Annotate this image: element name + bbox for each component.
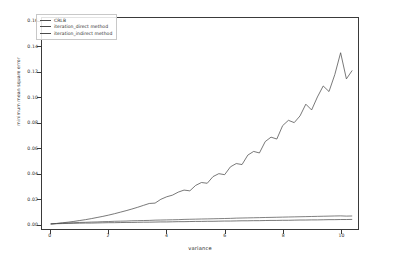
series-line xyxy=(51,53,353,224)
legend-swatch-icon xyxy=(40,26,51,27)
plot-area xyxy=(41,17,359,230)
chart-curves xyxy=(42,18,358,229)
legend-item-iteration-indirect[interactable]: iteration_indirect method xyxy=(40,30,112,37)
legend-swatch-icon xyxy=(40,20,51,21)
x-tick-mark xyxy=(108,230,109,234)
y-axis-label: minimum mean square error xyxy=(16,37,21,147)
x-tick-mark xyxy=(50,230,51,234)
y-tick-label: 0.04 xyxy=(0,171,38,176)
legend-swatch-icon xyxy=(40,33,51,34)
legend-label: iteration_indirect method xyxy=(54,31,112,36)
x-tick-mark xyxy=(341,230,342,234)
legend-label: iteration_direct method xyxy=(54,24,108,29)
chart-figure: 0.000.020.040.060.080.100.120.140.16 024… xyxy=(0,0,401,267)
y-tick-label: 0.02 xyxy=(0,197,38,202)
x-tick-mark xyxy=(166,230,167,234)
x-tick-mark xyxy=(283,230,284,234)
y-tick-label: 0.00 xyxy=(0,222,38,227)
legend-item-crlb[interactable]: CRLB xyxy=(40,17,112,24)
x-tick-mark xyxy=(225,230,226,234)
chart-legend: CRLB iteration_direct method iteration_i… xyxy=(36,14,117,40)
y-tick-label: 0.16 xyxy=(0,18,38,23)
legend-item-iteration-direct[interactable]: iteration_direct method xyxy=(40,24,112,31)
legend-label: CRLB xyxy=(54,18,66,23)
x-axis-label: variance xyxy=(41,245,359,251)
